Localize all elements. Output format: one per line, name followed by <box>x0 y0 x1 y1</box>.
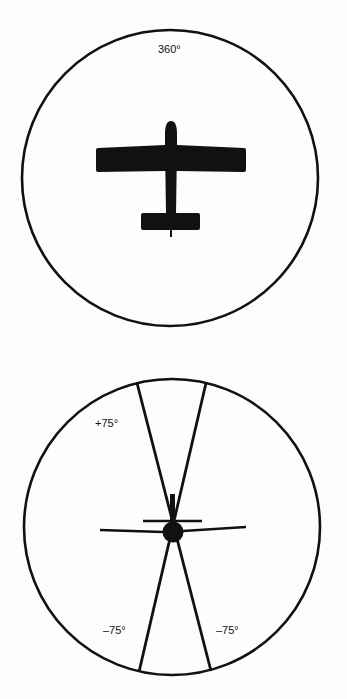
right-wing-line <box>183 527 246 531</box>
top-view-diagram <box>22 30 318 326</box>
vertical-fin-shape <box>170 494 175 521</box>
label-plus-75-degrees: +75° <box>95 418 118 429</box>
diagram-canvas: 360° +75° –75° –75° <box>0 0 347 699</box>
main-wing-shape <box>96 145 246 172</box>
airplane-front-view-icon <box>100 494 246 543</box>
label-minus-75-degrees-right: –75° <box>216 625 239 636</box>
tail-spike-shape <box>170 229 172 237</box>
tail-stabilizer-shape <box>141 213 200 230</box>
front-view-diagram <box>24 379 320 675</box>
fuselage-circle <box>163 522 184 543</box>
airplane-top-view-icon <box>96 121 246 237</box>
diagram-svg <box>0 0 347 699</box>
label-360-degrees: 360° <box>158 44 181 55</box>
label-minus-75-degrees-left: –75° <box>103 625 126 636</box>
left-wing-line <box>100 530 163 532</box>
